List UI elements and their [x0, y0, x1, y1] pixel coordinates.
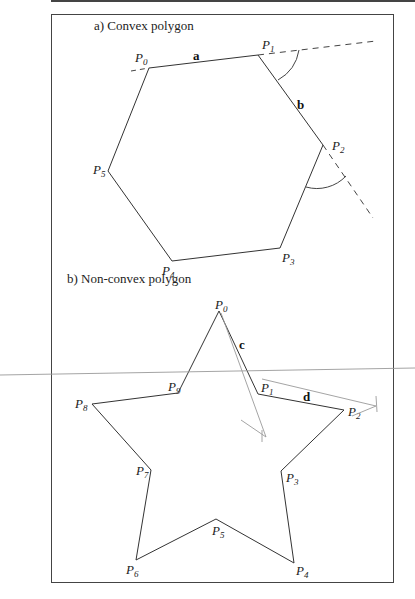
- star-vertex-label-p5: P5: [211, 523, 225, 540]
- extension-dash-p2: [323, 145, 373, 218]
- polygon-diagram: a) Convex polygon P0P1P2P3P4P5ab b) Non-…: [0, 0, 415, 599]
- star-vertex-label-p9: P9: [167, 379, 181, 396]
- panel-b-title: b) Non-convex polygon: [67, 271, 192, 286]
- star-vertex-label-p6: P6: [125, 562, 139, 579]
- star-vertex-label-p0: P0: [214, 297, 228, 314]
- star-vertex-label-p1: P1: [260, 380, 273, 397]
- convex-edge-label-a: a: [193, 48, 200, 63]
- panel-a-title: a) Convex polygon: [94, 18, 194, 33]
- panel-b-nonconvex: b) Non-convex polygon P0P1P2P3P4P5P6P7P8…: [0, 271, 415, 580]
- star-vertex-label-p3: P3: [285, 470, 299, 487]
- top-rule: [51, 0, 415, 2]
- convex-vertex-label-p2: P2: [331, 138, 345, 155]
- convex-vertex-label-p5: P5: [92, 162, 106, 179]
- convex-vertex-label-p0: P0: [134, 50, 148, 67]
- star-edge-label-d: d: [303, 389, 311, 404]
- convex-vertex-label-p1: P1: [261, 37, 274, 54]
- star-edge-label-c: c: [239, 337, 245, 352]
- convex-edge-label-b: b: [297, 97, 304, 112]
- extension-dash-p0: [131, 68, 149, 71]
- pencil-annotations: [0, 313, 415, 442]
- exterior-angle-arc-p2: [306, 176, 346, 189]
- convex-hexagon: [108, 55, 323, 261]
- star-vertex-label-p2: P2: [347, 404, 361, 421]
- star-vertex-label-p8: P8: [74, 396, 88, 413]
- panel-a-convex: a) Convex polygon P0P1P2P3P4P5ab: [92, 18, 376, 280]
- star-vertex-label-p4: P4: [295, 563, 309, 580]
- exterior-angle-arc-p1: [278, 50, 299, 80]
- extension-dash-p1: [258, 41, 376, 55]
- convex-vertex-label-p3: P3: [281, 250, 295, 267]
